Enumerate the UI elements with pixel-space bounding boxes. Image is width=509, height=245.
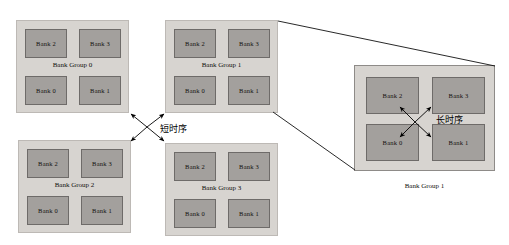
bank-3-in-group-2: Bank 3 xyxy=(81,149,123,178)
bank-group-1: Bank 2 Bank 3 Bank Group 1 Bank 0 Bank 1 xyxy=(165,20,278,113)
bank-group-2: Bank 2 Bank 3 Bank Group 2 Bank 0 Bank 1 xyxy=(18,140,131,233)
magnified-bank-0: Bank 0 xyxy=(366,124,419,161)
magnified-bank-group-1: Bank 2 Bank 3 Bank 0 Bank 1 xyxy=(354,65,495,171)
bank-2-in-group-1: Bank 2 xyxy=(174,29,216,58)
bank-2-in-group-3: Bank 2 xyxy=(174,152,216,181)
bank-3-in-group-3: Bank 3 xyxy=(228,152,270,181)
bank-0-in-group-0: Bank 0 xyxy=(25,76,67,105)
magnified-bank-2: Bank 2 xyxy=(366,77,419,114)
bank-1-in-group-0: Bank 1 xyxy=(79,76,121,105)
bank-group-3: Bank 2 Bank 3 Bank Group 3 Bank 0 Bank 1 xyxy=(165,143,278,236)
bank-0-in-group-3: Bank 0 xyxy=(174,199,216,228)
bank-1-in-group-3: Bank 1 xyxy=(228,199,270,228)
bank-0-in-group-1: Bank 0 xyxy=(174,76,216,105)
bank-2-in-group-0: Bank 2 xyxy=(25,29,67,58)
magnified-bank-1: Bank 1 xyxy=(432,124,485,161)
bank-3-in-group-1: Bank 3 xyxy=(228,29,270,58)
magnified-bank-3: Bank 3 xyxy=(432,77,485,114)
short-timing-label: 短时序 xyxy=(160,122,187,135)
bank-group-2-label: Bank Group 2 xyxy=(19,181,130,189)
diagram-canvas: Bank 2 Bank 3 Bank Group 0 Bank 0 Bank 1… xyxy=(0,0,509,245)
bank-3-in-group-0: Bank 3 xyxy=(79,29,121,58)
magnified-bank-group-caption: Bank Group 1 xyxy=(354,182,495,190)
long-timing-label: 长时序 xyxy=(436,113,463,126)
bank-group-0: Bank 2 Bank 3 Bank Group 0 Bank 0 Bank 1 xyxy=(16,20,129,113)
bank-1-in-group-1: Bank 1 xyxy=(228,76,270,105)
bank-group-3-label: Bank Group 3 xyxy=(166,184,277,192)
bank-group-1-label: Bank Group 1 xyxy=(166,61,277,69)
bank-2-in-group-2: Bank 2 xyxy=(27,149,69,178)
bank-0-in-group-2: Bank 0 xyxy=(27,196,69,225)
bank-group-0-label: Bank Group 0 xyxy=(17,61,128,69)
bank-1-in-group-2: Bank 1 xyxy=(81,196,123,225)
